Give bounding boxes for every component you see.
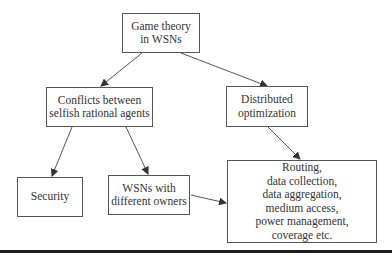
node-label: Distributed optimization	[238, 93, 296, 120]
node-conflicts-between-selfish-agents: Conflicts between selfish rational agent…	[46, 87, 153, 127]
arrow-owners-to-applications	[191, 195, 226, 203]
node-applications-list: Routing, data collection, data aggregati…	[227, 160, 377, 243]
arrow-distributed-to-applications	[268, 127, 300, 159]
arrow-conflicts-to-owners	[126, 127, 148, 174]
node-security: Security	[17, 177, 83, 217]
arrow-conflicts-to-security	[52, 127, 72, 176]
node-label: Conflicts between selfish rational agent…	[49, 94, 149, 121]
node-label: Security	[31, 190, 69, 204]
arrow-root-to-conflicts	[101, 53, 142, 86]
node-distributed-optimization: Distributed optimization	[226, 86, 308, 127]
node-label: Routing, data collection, data aggregati…	[255, 161, 348, 242]
bottom-rule-divider	[0, 250, 392, 253]
node-wsns-with-different-owners: WSNs with different owners	[108, 175, 190, 215]
node-label: WSNs with different owners	[111, 182, 186, 209]
arrow-root-to-distributed	[181, 53, 267, 86]
node-label: Game theory in WSNs	[131, 20, 191, 47]
node-game-theory-in-wsns: Game theory in WSNs	[122, 13, 200, 53]
